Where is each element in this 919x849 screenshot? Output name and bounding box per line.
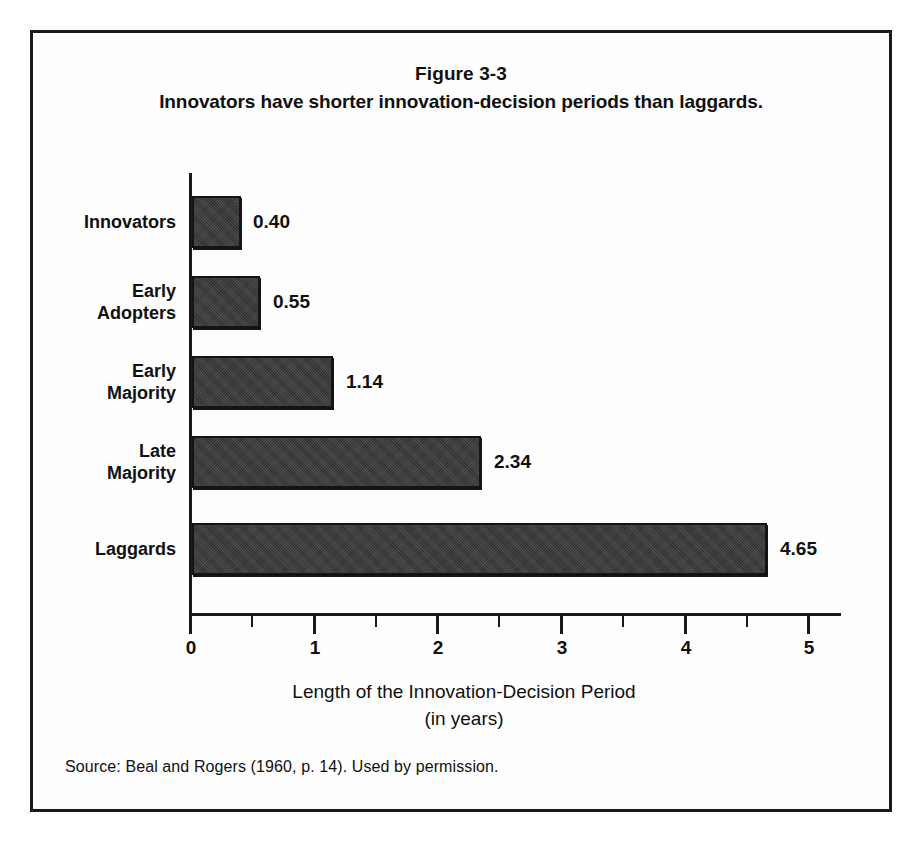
category-label-innovators: Innovators [0, 211, 176, 233]
category-label-late-majority: Late Majority [0, 440, 176, 484]
x-tick-label-3: 3 [542, 637, 582, 659]
x-tick-label-5: 5 [789, 637, 829, 659]
category-label-early-majority: Early Majority [0, 360, 176, 404]
bar-chart-plot-area: Innovators 0.40 Early Adopters 0.55 Earl… [33, 33, 895, 815]
bar-late-majority [192, 436, 481, 488]
category-label-early-adopters: Early Adopters [0, 280, 176, 324]
x-tick-major-1 [313, 616, 316, 634]
bar-early-adopters [192, 276, 260, 328]
x-axis-line [189, 613, 841, 616]
x-axis-title: Length of the Innovation-Decision Period… [33, 678, 895, 732]
x-tick-label-4: 4 [666, 637, 706, 659]
x-tick-major-2 [436, 616, 439, 634]
category-label-laggards: Laggards [0, 538, 176, 560]
x-tick-major-5 [807, 616, 810, 634]
x-tick-major-4 [684, 616, 687, 634]
bar-row-early-majority: Early Majority 1.14 [33, 356, 895, 408]
x-tick-label-1: 1 [295, 637, 335, 659]
bar-laggards [192, 523, 767, 575]
bar-row-laggards: Laggards 4.65 [33, 523, 895, 575]
x-tick-minor-4-5 [746, 616, 748, 627]
x-tick-minor-3-5 [622, 616, 624, 627]
x-tick-label-2: 2 [418, 637, 458, 659]
x-tick-minor-1-5 [375, 616, 377, 627]
bar-early-majority [192, 356, 333, 408]
bar-row-late-majority: Late Majority 2.34 [33, 436, 895, 488]
bar-value-laggards: 4.65 [780, 538, 817, 560]
x-tick-label-0: 0 [171, 637, 211, 659]
bar-value-innovators: 0.40 [253, 211, 290, 233]
bar-value-early-majority: 1.14 [346, 371, 383, 393]
x-tick-major-0 [189, 616, 192, 634]
x-tick-major-3 [560, 616, 563, 634]
bar-row-early-adopters: Early Adopters 0.55 [33, 276, 895, 328]
figure-frame: Figure 3-3 Innovators have shorter innov… [30, 30, 892, 812]
bar-value-early-adopters: 0.55 [273, 291, 310, 313]
bar-innovators [192, 196, 241, 248]
x-tick-minor-2-5 [498, 616, 500, 627]
bar-row-innovators: Innovators 0.40 [33, 196, 895, 248]
bar-value-late-majority: 2.34 [494, 451, 531, 473]
x-axis-title-line2: (in years) [33, 705, 895, 732]
x-tick-minor-0-5 [251, 616, 253, 627]
x-axis-title-line1: Length of the Innovation-Decision Period [33, 678, 895, 705]
source-note: Source: Beal and Rogers (1960, p. 14). U… [65, 758, 499, 776]
